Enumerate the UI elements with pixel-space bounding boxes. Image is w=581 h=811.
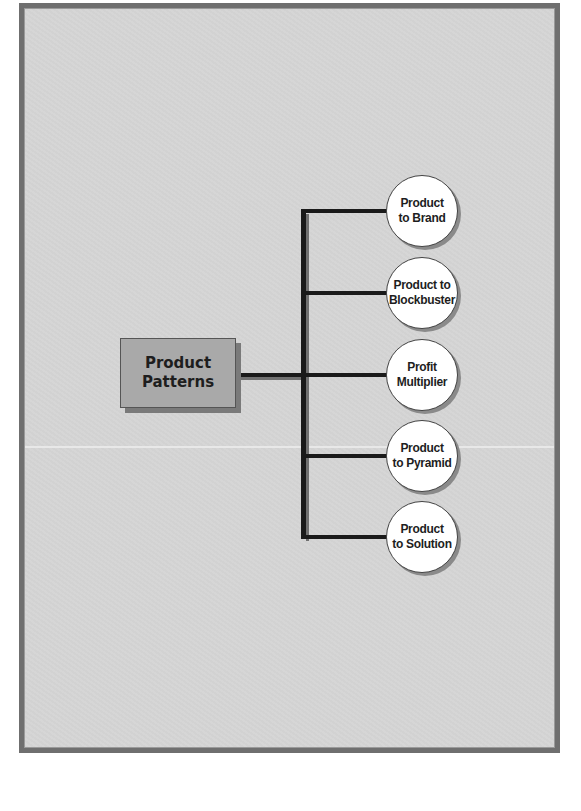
node-label-line1: Profit <box>397 360 447 375</box>
root-label-line1: Product <box>142 354 214 373</box>
connector-shadow <box>238 377 308 380</box>
node-label-line2: to Pyramid <box>392 456 451 471</box>
connector-branch-3 <box>301 373 391 377</box>
node-label-line1: Product <box>392 441 451 456</box>
node-product-to-blockbuster: Product to Blockbuster <box>386 257 458 329</box>
node-label-line1: Product to <box>389 278 455 293</box>
node-product-to-solution: Product to Solution <box>386 501 458 573</box>
node-profit-multiplier: Profit Multiplier <box>386 339 458 411</box>
connector-branch-1 <box>301 209 391 213</box>
connector-branch-5 <box>301 535 391 539</box>
node-product-to-pyramid: Product to Pyramid <box>386 420 458 492</box>
connector-branch-2 <box>301 291 391 295</box>
node-label-line2: Multiplier <box>397 375 447 390</box>
node-product-to-brand: Product to Brand <box>386 175 458 247</box>
node-label-line2: Blockbuster <box>389 293 455 308</box>
node-label-line1: Product <box>392 522 451 537</box>
node-label-line1: Product <box>399 196 446 211</box>
root-label-line2: Patterns <box>142 373 214 392</box>
scan-line-artifact <box>25 446 554 448</box>
node-label-line2: to Solution <box>392 537 451 552</box>
connector-shadow <box>306 214 309 541</box>
connector-root-to-trunk <box>236 373 306 377</box>
root-node-product-patterns: Product Patterns <box>120 338 236 408</box>
connector-branch-4 <box>301 454 391 458</box>
node-label-line2: to Brand <box>399 211 446 226</box>
